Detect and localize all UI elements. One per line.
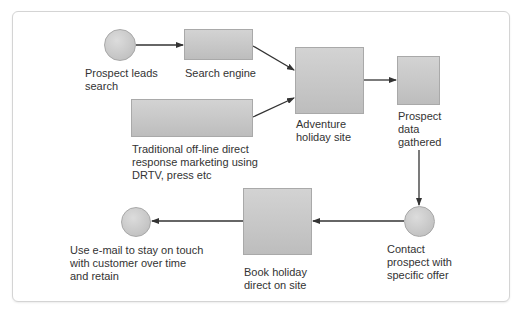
use-email-circle [121, 207, 151, 237]
traditional-marketing-label: Traditional off-line direct response mar… [132, 143, 258, 182]
prospect-data-box [397, 56, 440, 105]
prospect-leads-label: Prospect leads search [85, 67, 158, 93]
traditional-marketing-box [131, 99, 253, 137]
adventure-site-label: Adventure holiday site [296, 118, 351, 144]
prospect-data-label: Prospect data gathered [398, 110, 441, 149]
edge-traditional-to-adventure [253, 98, 294, 117]
search-engine-box [184, 29, 253, 60]
use-email-label: Use e-mail to stay on touch with custome… [70, 244, 203, 283]
edge-search-to-adventure [253, 46, 294, 70]
prospect-leads-circle [104, 29, 136, 61]
contact-prospect-circle [404, 206, 435, 237]
book-holiday-box [243, 188, 312, 255]
book-holiday-label: Book holiday direct on site [244, 266, 307, 292]
adventure-site-box [295, 47, 364, 114]
search-engine-label: Search engine [185, 67, 256, 80]
contact-prospect-label: Contact prospect with specific offer [387, 243, 452, 282]
